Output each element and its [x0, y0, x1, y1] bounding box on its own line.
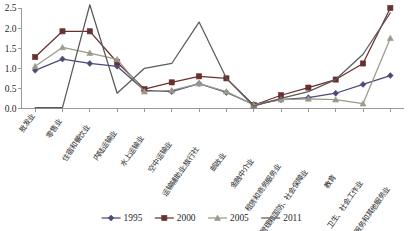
- data-point-marker: [162, 215, 167, 220]
- x-axis-group: [22, 109, 405, 113]
- data-series-group: [32, 5, 393, 108]
- chart-canvas: 0.00.51.01.52.02.5 批发业零售业住宿和餐饮业内陆运输业水上运输…: [0, 0, 408, 231]
- category-label: 金融中介业: [228, 157, 255, 191]
- legend-label: 2000: [177, 213, 196, 223]
- category-label: 批发业: [17, 112, 36, 134]
- data-point-marker: [59, 44, 65, 49]
- data-point-marker: [333, 90, 339, 96]
- category-label: 住宿和餐饮业: [60, 123, 91, 163]
- y-tick-label: 0.5: [5, 84, 17, 94]
- category-label: 水上运输业: [119, 134, 146, 168]
- y-tick-label: 2.0: [5, 24, 17, 34]
- y-axis-ticks: 0.00.51.01.52.02.5: [5, 3, 22, 114]
- data-point-marker: [360, 61, 365, 66]
- y-tick-label: 1.5: [5, 44, 17, 54]
- line-chart: 0.00.51.01.52.02.5 批发业零售业住宿和餐饮业内陆运输业水上运输…: [0, 0, 408, 231]
- data-point-marker: [33, 54, 38, 59]
- data-point-marker: [60, 56, 66, 62]
- data-point-marker: [87, 29, 92, 34]
- data-point-marker: [108, 215, 114, 221]
- category-label: 空中运输业: [146, 140, 173, 174]
- data-point-marker: [360, 81, 366, 87]
- category-label: 教育: [322, 174, 337, 191]
- y-axis-group: 0.00.51.01.52.02.5: [5, 3, 22, 114]
- data-point-marker: [87, 60, 93, 66]
- data-point-marker: [169, 80, 174, 85]
- data-point-marker: [388, 5, 393, 10]
- series-line: [35, 8, 390, 105]
- x-axis-ticks: [35, 109, 390, 113]
- data-point-marker: [60, 29, 65, 34]
- category-labels-group: 批发业零售业住宿和餐饮业内陆运输业水上运输业空中运输业运输辅助业;旅行社邮政业金…: [17, 112, 392, 231]
- legend-label: 1995: [124, 213, 143, 223]
- data-point-marker: [388, 73, 394, 79]
- legend-label: 2005: [230, 213, 249, 223]
- data-point-marker: [306, 85, 311, 90]
- category-label: 内陆运输业: [91, 129, 118, 163]
- data-point-marker: [196, 74, 201, 79]
- data-point-marker: [387, 35, 393, 40]
- series-2005: [32, 35, 393, 107]
- category-label: 邮政业: [209, 151, 228, 173]
- y-tick-label: 0.0: [5, 104, 17, 114]
- category-label: 零售业: [45, 118, 64, 140]
- legend-item-2000[interactable]: 2000: [155, 213, 196, 223]
- legend-item-1995[interactable]: 1995: [102, 213, 143, 223]
- legend-item-2005[interactable]: 2005: [208, 213, 249, 223]
- y-tick-label: 2.5: [5, 3, 17, 13]
- y-tick-label: 1.0: [5, 64, 17, 74]
- legend-label: 2011: [283, 213, 302, 223]
